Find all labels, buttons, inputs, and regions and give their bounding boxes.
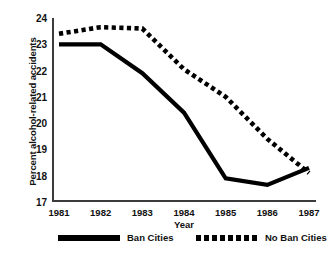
- series-line-no-ban-cities: [59, 27, 309, 173]
- y-tick-label: 24: [36, 13, 47, 24]
- y-tick-label: 17: [36, 197, 47, 208]
- plot-area: 1718192021222324 19811982198319841985198…: [52, 18, 316, 202]
- y-tick-label: 21: [36, 91, 47, 102]
- y-tick-label: 18: [36, 170, 47, 181]
- x-tick-label: 1983: [132, 207, 153, 218]
- legend-item-ban-cities: Ban Cities: [58, 232, 173, 243]
- x-axis-title: Year: [52, 219, 316, 230]
- legend-label-no-ban-cities: No Ban Cities: [265, 232, 327, 243]
- y-tick-label: 22: [36, 65, 47, 76]
- x-tick-label: 1987: [298, 207, 319, 218]
- y-tick-label: 23: [36, 39, 47, 50]
- x-tick-label: 1982: [90, 207, 111, 218]
- chart-legend: Ban Cities No Ban Cities: [0, 232, 334, 252]
- legend-swatch-dotted-icon: [196, 235, 258, 241]
- x-tick-label: 1985: [215, 207, 236, 218]
- x-tick-label: 1984: [173, 207, 194, 218]
- y-tick-label: 19: [36, 144, 47, 155]
- legend-item-no-ban-cities: No Ban Cities: [196, 232, 327, 243]
- x-tick-label: 1986: [257, 207, 278, 218]
- x-tick-label: 1981: [48, 207, 69, 218]
- series-line-ban-cities: [59, 44, 309, 185]
- series-lines: [52, 18, 316, 202]
- y-tick-label: 20: [36, 118, 47, 129]
- legend-swatch-solid-icon: [58, 235, 120, 241]
- chart-figure: Percent alcohol-related accidents 171819…: [0, 0, 334, 255]
- legend-label-ban-cities: Ban Cities: [127, 232, 173, 243]
